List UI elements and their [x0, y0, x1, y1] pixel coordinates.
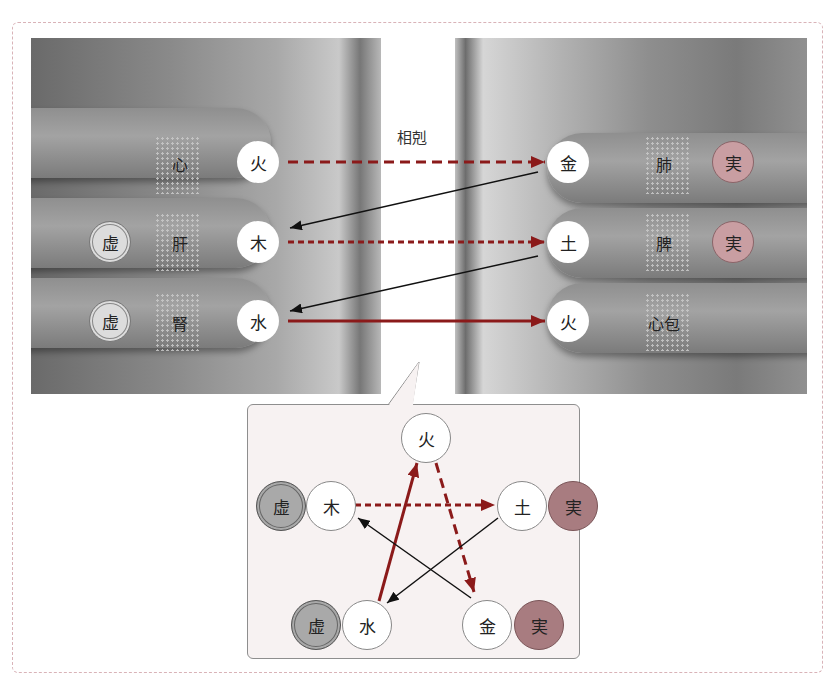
pentagram-status-wood: 虚: [256, 481, 306, 531]
pentagram-node-earth: 土: [497, 481, 547, 531]
pentagram-node-wood: 木: [306, 481, 356, 531]
pentagram-node-metal: 金: [462, 600, 512, 650]
arrow-water-to-fire-star: [379, 463, 417, 601]
arrow-fire-to-metal-star: [436, 463, 474, 592]
pentagram-status-water: 虚: [291, 600, 341, 650]
pentagram-status-earth: 実: [548, 481, 598, 531]
pentagram-status-metal: 実: [514, 600, 564, 650]
pentagram-arrows: [0, 0, 836, 685]
arrow-metal-to-wood-star: [358, 518, 471, 598]
pentagram-node-fire: 火: [401, 413, 451, 463]
arrow-earth-to-water-star: [387, 518, 498, 603]
pentagram-node-water: 水: [342, 600, 392, 650]
